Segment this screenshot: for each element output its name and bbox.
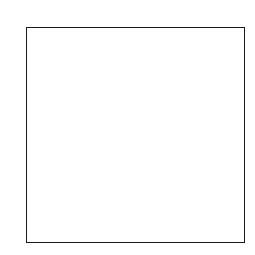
matrix-grid [26, 27, 245, 243]
